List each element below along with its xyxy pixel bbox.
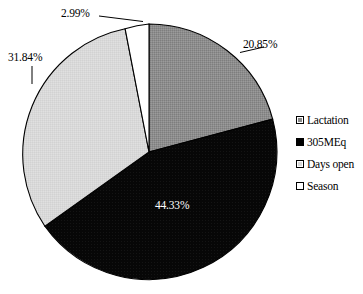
chart-legend: Lactation 305MEq Days open Season <box>296 111 362 199</box>
slice-value-lactation: 20.85% <box>243 38 277 50</box>
legend-swatch-lactation <box>296 116 304 124</box>
legend-item-lactation[interactable]: Lactation <box>296 111 362 129</box>
legend-swatch-305meq <box>296 138 304 146</box>
slice-value-season: 2.99% <box>61 7 90 19</box>
legend-swatch-season <box>296 182 304 190</box>
slice-value-305meq: 44.33% <box>155 199 189 211</box>
legend-item-days-open[interactable]: Days open <box>296 155 362 173</box>
legend-label-lactation: Lactation <box>307 114 349 126</box>
legend-swatch-days-open <box>296 160 304 168</box>
legend-label-season: Season <box>307 180 338 192</box>
legend-item-season[interactable]: Season <box>296 177 362 195</box>
legend-label-305meq: 305MEq <box>307 136 346 148</box>
leader-line-season <box>99 16 143 22</box>
slice-value-days-open: 31.84% <box>8 51 42 63</box>
legend-item-305meq[interactable]: 305MEq <box>296 133 362 151</box>
legend-label-days-open: Days open <box>307 158 354 170</box>
pie-chart-figure: 2.99% 20.85% 31.84% 44.33% Lactation 305… <box>0 0 363 294</box>
